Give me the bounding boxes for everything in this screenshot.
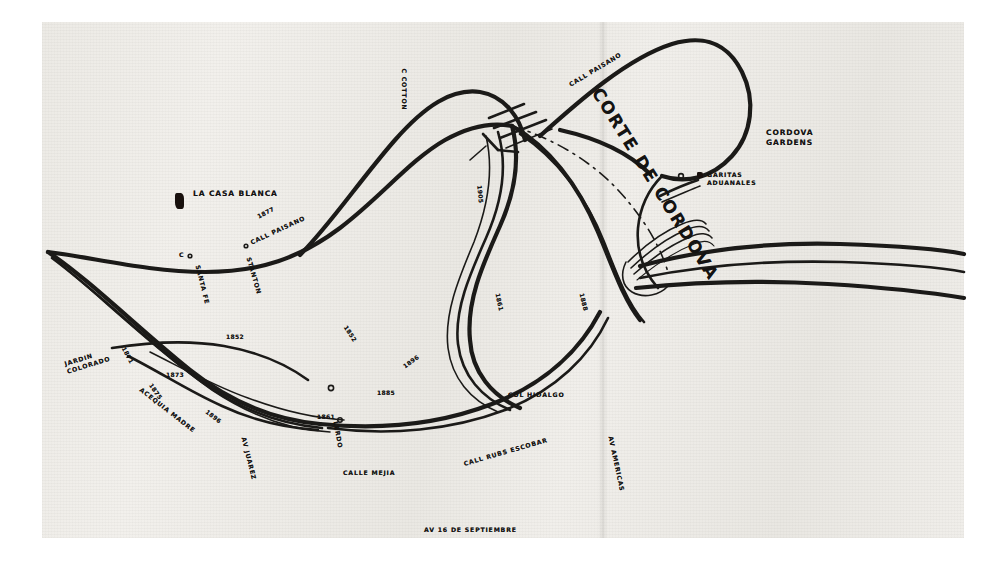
river-course-south-bank — [320, 312, 600, 426]
node-dot-1 — [328, 385, 333, 390]
junction-tick-c — [470, 146, 486, 160]
place-label-col-hidalgo: COL HIDALGO — [508, 392, 564, 399]
map-linework — [0, 0, 1006, 573]
river-course-east-bank-south — [636, 282, 964, 298]
place-label-garitas-aduanales: GARITASADUANALES — [707, 171, 756, 188]
river-course-cordova-bend-c — [447, 136, 498, 412]
year-label-year-1905: 1905 — [476, 185, 484, 204]
node-dot-2 — [188, 254, 192, 258]
river-course-main-1852 — [48, 125, 512, 272]
river-course-cordova-bend — [469, 126, 520, 408]
symbol-casa-blanca-block — [175, 193, 184, 209]
year-label-year-1861-south: 1861 — [317, 414, 335, 421]
river-course-east-arc — [512, 126, 640, 320]
river-course-diagonal-left — [48, 252, 320, 424]
street-label-calle-mejia: CALLE MEJIA — [343, 470, 395, 477]
symbol-garita-block — [697, 172, 703, 178]
street-label-calle-c: C — [179, 252, 184, 259]
node-dot-3 — [244, 244, 248, 248]
year-label-year-1885: 1885 — [377, 390, 395, 397]
street-label-calle-cotton: C COTTON — [401, 68, 408, 110]
place-label-cordova-gardens: CORDOVAGARDENS — [766, 128, 813, 148]
river-course-cordova-bend-b — [457, 132, 510, 410]
river-course-east-bank-mid — [640, 262, 964, 278]
place-label-la-casa-blanca: LA CASA BLANCA — [193, 190, 278, 198]
river-course-diagonal-left-c — [58, 262, 330, 432]
year-label-year-1852-west: 1852 — [226, 334, 244, 341]
map-page: CORTE DE CORDOVALA CASA BLANCACORDOVAGAR… — [0, 0, 1006, 573]
river-course-1852-arm — [112, 342, 308, 380]
node-dot-5 — [679, 174, 684, 179]
year-label-year-1873: 1873 — [166, 372, 184, 379]
street-label-avenida-16-de-septiembre: AV 16 DE SEPTIEMBRE — [424, 527, 517, 534]
